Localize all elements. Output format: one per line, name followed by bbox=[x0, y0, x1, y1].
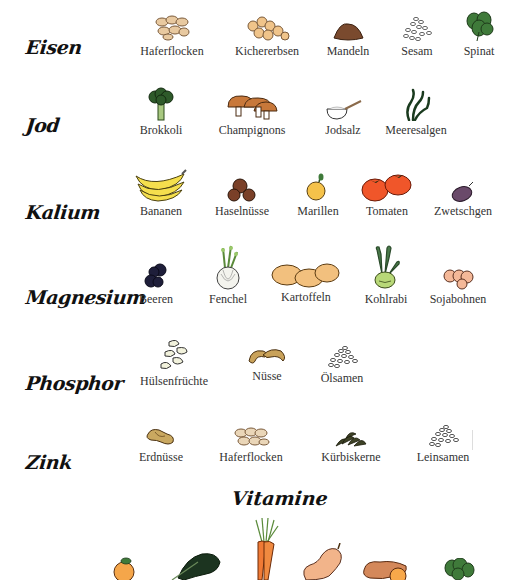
food-item-bananen: Bananen bbox=[116, 168, 206, 219]
food-item-label: Hülsenfrüchte bbox=[129, 374, 219, 389]
category-eisen-label: Eisen bbox=[25, 36, 83, 58]
food-item-label: Meeresalgen bbox=[371, 123, 461, 138]
sweet-potato-icon bbox=[362, 558, 408, 580]
chickpeas-icon bbox=[243, 14, 291, 42]
food-item-label: Champignons bbox=[207, 123, 297, 138]
food-item-leinsamen: Leinsamen bbox=[398, 424, 488, 465]
fennel-icon bbox=[213, 244, 243, 290]
food-item-haferflocken-zink: Haferflocken bbox=[206, 426, 296, 465]
category-kalium-label: Kalium bbox=[25, 201, 101, 223]
pumpkin-seeds-icon bbox=[334, 428, 368, 448]
food-item-sojabohnen: Sojabohnen bbox=[413, 268, 503, 307]
food-item-label: Spinat bbox=[434, 44, 513, 59]
mushrooms-icon bbox=[224, 93, 280, 121]
apricot-icon bbox=[112, 556, 136, 580]
food-item-label: Fenchel bbox=[183, 292, 273, 307]
food-item-fenchel: Fenchel bbox=[183, 244, 273, 307]
soybeans-icon bbox=[442, 268, 474, 290]
food-item-label: Kichererbsen bbox=[222, 44, 312, 59]
legumes-icon bbox=[157, 338, 191, 372]
spinach-icon bbox=[443, 558, 475, 580]
hazelnuts-icon bbox=[226, 178, 258, 202]
salt-spoon-icon bbox=[323, 95, 363, 121]
food-item-huelsenfruechte: Hülsenfrüchte bbox=[129, 338, 219, 389]
food-item-champignons: Champignons bbox=[207, 93, 297, 138]
food-item-kichererbsen: Kichererbsen bbox=[222, 14, 312, 59]
food-item-label: Bananen bbox=[116, 204, 206, 219]
oat-flakes-icon bbox=[232, 426, 270, 448]
vitamine-title: Vitamine bbox=[231, 487, 329, 509]
peanuts-icon bbox=[145, 426, 177, 448]
oat-flakes-icon bbox=[152, 14, 192, 42]
food-item-oelsamen: Ölsamen bbox=[297, 345, 387, 386]
apricot-icon bbox=[305, 172, 331, 202]
food-item-erdnuesse: Erdnüsse bbox=[116, 426, 206, 465]
food-item-spinat: Spinat bbox=[434, 10, 513, 59]
broccoli-icon bbox=[147, 87, 175, 121]
butternut-squash-icon bbox=[300, 543, 346, 580]
seaweed-icon bbox=[401, 88, 431, 121]
sesame-seeds-icon bbox=[400, 14, 434, 42]
food-item-label: Kürbiskerne bbox=[306, 450, 396, 465]
almonds-icon bbox=[330, 14, 366, 42]
oilseeds-icon bbox=[325, 345, 359, 369]
food-item-label: Brokkoli bbox=[116, 123, 206, 138]
category-zink-label: Zink bbox=[25, 451, 73, 473]
food-item-label: Ölsamen bbox=[297, 371, 387, 386]
kale-icon bbox=[168, 550, 222, 580]
spinach-icon bbox=[463, 10, 495, 42]
food-item-label: Haferflocken bbox=[206, 450, 296, 465]
food-item-label: Kartoffeln bbox=[261, 290, 351, 305]
bananas-icon bbox=[134, 168, 188, 202]
divider bbox=[472, 430, 473, 450]
food-item-label: Sojabohnen bbox=[413, 292, 503, 307]
category-phosphor-label: Phosphor bbox=[25, 372, 125, 394]
berries-icon bbox=[141, 262, 171, 290]
tomatoes-icon bbox=[360, 172, 414, 202]
food-item-label: Erdnüsse bbox=[116, 450, 206, 465]
food-item-haferflocken: Haferflocken bbox=[127, 14, 217, 59]
food-item-zwetschgen: Zwetschgen bbox=[418, 180, 508, 219]
category-jod-label: Jod bbox=[25, 114, 61, 136]
carrot-icon bbox=[250, 516, 280, 580]
food-item-label: Zwetschgen bbox=[418, 204, 508, 219]
food-item-kartoffeln: Kartoffeln bbox=[261, 262, 351, 305]
plum-icon bbox=[451, 180, 475, 202]
food-item-label: Haferflocken bbox=[127, 44, 217, 59]
cashews-icon bbox=[247, 345, 287, 367]
potatoes-icon bbox=[271, 262, 341, 288]
food-item-brokkoli: Brokkoli bbox=[116, 87, 206, 138]
food-item-meeresalgen: Meeresalgen bbox=[371, 88, 461, 138]
flaxseeds-icon bbox=[426, 424, 460, 448]
food-item-label: Leinsamen bbox=[398, 450, 488, 465]
food-item-kuerbiskerne: Kürbiskerne bbox=[306, 428, 396, 465]
kohlrabi-icon bbox=[369, 244, 403, 290]
